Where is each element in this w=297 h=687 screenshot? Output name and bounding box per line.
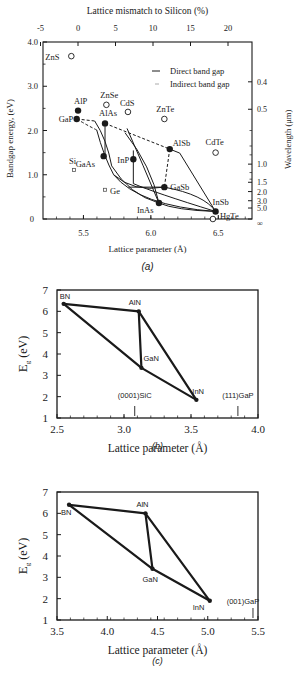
band-curve [105,123,170,149]
alloy-line [64,304,142,368]
label-cds: CdS [120,98,135,108]
point-alp [75,107,81,113]
point-inn [194,398,198,402]
alloy-line [145,513,209,600]
y-tick-label: 5 [43,529,49,541]
label-znse: ZnSe [100,90,118,100]
x-tick-label: 3.5 [50,625,64,637]
y-axis-label: Bandgap energy, (eV) [5,99,15,178]
point-aln [143,511,147,515]
x-tick-label: 2.5 [50,423,64,435]
top-tick-label: -5 [37,23,44,33]
point-cds [125,109,131,115]
y-tick-label: 7 [43,284,49,296]
y-tick-label: 3 [43,369,49,381]
point-hgte [210,216,216,222]
right-tick-label: ∞ [257,219,263,228]
top-axis-label: Lattice mismatch to Silicon (%) [87,6,208,17]
label-insb: InSb [213,197,229,207]
label-alas: AlAs [99,108,117,118]
right-tick-label: 1.0 [257,160,267,169]
substrate-label: (111)GaP [222,391,253,400]
point-zns [69,53,75,59]
y-tick-label: 2 [43,593,49,605]
label-inn: InN [192,387,204,396]
caption: (b) [152,441,163,451]
y-axis-label: Eg (eV) [15,336,32,372]
y-tick-label: 2.0 [27,126,38,136]
point-bn [67,503,71,507]
band-curve [164,149,169,187]
point-gan [150,567,154,571]
top-tick-label: 0 [76,23,80,33]
point-znse [104,102,110,108]
label-bn: BN [61,508,71,517]
point-inas [156,200,162,206]
right-tick-label: 0.4 [257,78,267,87]
point-znte [162,116,168,122]
top-tick-label: 10 [149,23,158,33]
top-tick-label: 20 [224,23,233,33]
legend-indirect: Indirect band gap [170,79,229,89]
label-gan: GaN [142,575,157,584]
label-gap: GaP [59,114,74,124]
point-gap [74,116,80,122]
x-axis-label: Lattice parameter (Å) [108,643,208,657]
chart-a: Lattice mismatch to Silicon (%)-50510152… [5,6,293,272]
y-tick-label: 4 [43,348,49,360]
point-gan [139,366,143,370]
alloy-line [152,569,209,601]
y-tick-label: 4.0 [27,37,38,47]
y-tick-label: 5 [43,327,49,339]
label-ge: Ge [110,186,120,196]
label-znte: ZnTe [156,104,174,114]
y-tick-label: 3 [43,571,49,583]
point-inp [130,156,136,162]
right-tick-label: 5.0 [257,204,267,213]
y-tick-label: 0 [30,214,34,224]
right-tick-label: 0.5 [257,105,267,114]
label-gaas: GaAs [76,159,95,169]
right-axis-label: Wavelength (μm) [283,110,293,170]
y-tick-label: 6 [43,305,49,317]
label-aln: AlN [136,500,148,509]
y-tick-label: 2 [43,391,49,403]
point-bn [62,302,66,306]
caption-a: (a) [141,261,153,272]
top-tick-label: 5 [113,23,117,33]
label-bn: BN [60,292,70,301]
x-axis-label: Lattice parameter (Å) [109,244,187,254]
right-tick-label: 1.5 [257,178,267,187]
chart-b: 12345672.53.03.54.0Lattice parameter (Å)… [15,284,265,455]
alloy-line [139,311,142,368]
label-cdte: CdTe [206,137,225,147]
x-tick-label: 6.0 [146,228,157,238]
y-axis-label: Eg (eV) [15,538,32,574]
point-cdte [213,150,219,156]
alloy-line [69,505,152,569]
label-gasb: GaSb [170,182,189,192]
label-inn: InN [193,603,205,612]
label-inas: InAs [137,205,154,215]
label-inp: InP [117,155,129,165]
label-hgte: HgTe [220,211,239,221]
x-tick-label: 5.5 [78,228,89,238]
substrate-label: (0001)SiC [118,391,152,400]
point-inn [208,599,212,603]
point-aln [137,309,141,313]
label-alsb: AlSb [173,138,190,148]
label-si: Si [69,156,77,166]
x-tick-label: 4.0 [251,423,265,435]
caption: (c) [152,656,163,666]
x-tick-label: 6.5 [213,228,224,238]
label-aln: AlN [129,298,141,307]
label-zns: ZnS [45,52,59,62]
x-tick-label: 5.0 [201,625,215,637]
x-tick-label: 3.0 [117,423,131,435]
y-tick-label: 3.0 [27,81,38,91]
label-gan: GaN [143,354,158,363]
x-tick-label: 4.5 [151,625,165,637]
label-alp: AlP [74,96,88,106]
alloy-line [64,304,139,311]
x-tick-label: 3.5 [184,423,198,435]
